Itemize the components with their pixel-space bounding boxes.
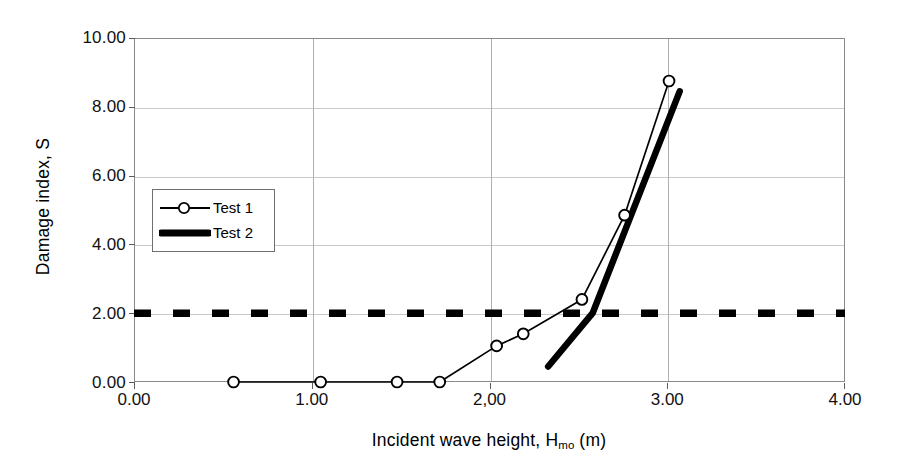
x-tick-label-4: 4.00 [805, 390, 885, 410]
legend-label-test-2: Test 2 [211, 225, 253, 240]
chart-legend[interactable]: Test 1 Test 2 [152, 189, 275, 252]
data-point-test-1-0 [228, 377, 239, 388]
data-point-test-1-6 [577, 294, 588, 305]
x-tick-label-1: 1.00 [272, 390, 352, 410]
data-point-test-1-8 [664, 76, 675, 87]
data-point-test-1-4 [491, 340, 502, 351]
x-axis-title-main: Incident wave height, H [372, 430, 559, 450]
series-line-test-2 [548, 91, 680, 366]
legend-label-test-1: Test 1 [211, 200, 253, 215]
data-point-test-1-7 [619, 210, 630, 221]
series-markers-test-1 [228, 76, 674, 388]
chart-figure: 10.00 8.00 6.00 4.00 2.00 0.00 [0, 0, 898, 475]
legend-key-test-2-icon [159, 223, 211, 243]
x-tick-label-3: 3.00 [627, 390, 707, 410]
data-point-test-1-3 [434, 377, 445, 388]
legend-item-test-2[interactable]: Test 2 [159, 220, 270, 245]
data-point-test-1-1 [315, 377, 326, 388]
x-tick-label-2: 2,00 [450, 390, 530, 410]
series-line-test-1 [234, 81, 669, 382]
data-point-test-1-2 [392, 377, 403, 388]
x-tick-label-0: 0.00 [94, 390, 174, 410]
x-axis-title-unit: (m) [574, 430, 606, 450]
legend-item-test-1[interactable]: Test 1 [159, 195, 270, 220]
y-axis-title: Damage index, S [33, 77, 54, 337]
x-axis-title-subscript: mo [558, 439, 574, 451]
legend-key-test-1-icon [159, 198, 211, 218]
data-point-test-1-5 [518, 328, 529, 339]
x-axis-tick-labels: 0.00 1.00 2,00 3.00 4.00 [0, 390, 898, 416]
x-axis-title: Incident wave height, Hmo (m) [0, 430, 898, 451]
